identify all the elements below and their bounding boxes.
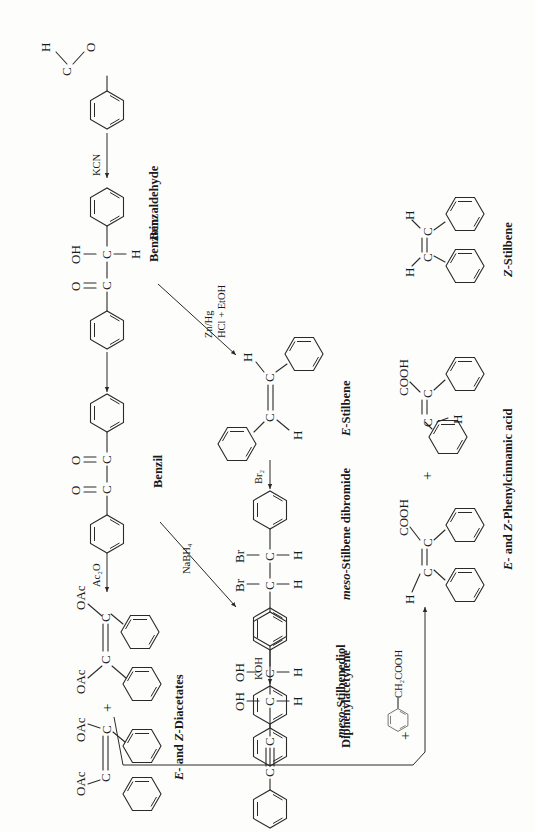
reaction-scheme-lower-row [0, 0, 535, 832]
reaction-scheme-page: C H O Benzaldehyde KCN C OH H C O Benzoi… [0, 0, 535, 832]
reaction-scheme-canvas: C H O Benzaldehyde KCN C OH H C O Benzoi… [0, 0, 535, 832]
